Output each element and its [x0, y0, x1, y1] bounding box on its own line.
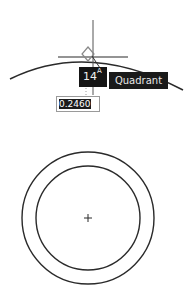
drawing-canvas[interactable] — [0, 0, 193, 295]
angle-input-display[interactable]: 14A — [79, 67, 107, 87]
angle-value: 14 — [83, 70, 97, 83]
diamond-quadrant-icon — [82, 47, 94, 61]
snap-tooltip-label: Quadrant — [115, 75, 162, 86]
length-input-value[interactable]: 0.2460 — [59, 99, 91, 109]
length-input-field[interactable]: 0.2460 — [56, 96, 100, 112]
angle-suffix: A — [97, 67, 102, 75]
snap-tooltip: Quadrant — [109, 72, 168, 89]
